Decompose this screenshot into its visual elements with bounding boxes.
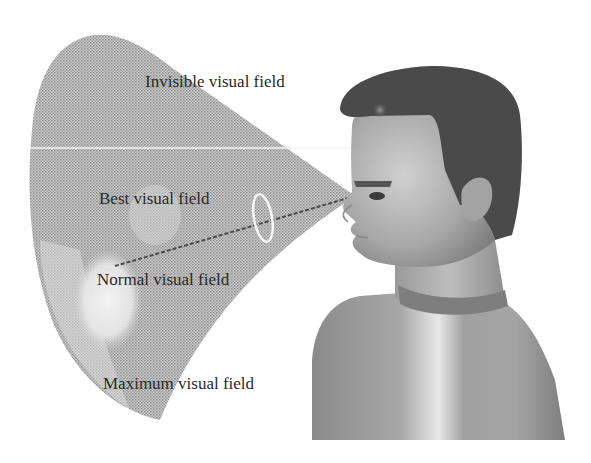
normal-visual-field-zone bbox=[74, 250, 142, 350]
label-invisible-visual-field: Invisible visual field bbox=[145, 72, 285, 92]
label-maximum-visual-field: Maximum visual field bbox=[103, 374, 254, 394]
visual-field-cone bbox=[29, 35, 355, 420]
eyebrow bbox=[354, 181, 392, 187]
diagram-canvas bbox=[0, 0, 591, 463]
torso bbox=[312, 293, 565, 440]
visual-field-diagram: Invisible visual field Best visual field… bbox=[0, 0, 591, 463]
human-figure bbox=[312, 66, 565, 440]
label-best-visual-field: Best visual field bbox=[99, 189, 209, 209]
eye bbox=[369, 192, 385, 200]
label-normal-visual-field: Normal visual field bbox=[97, 270, 229, 290]
